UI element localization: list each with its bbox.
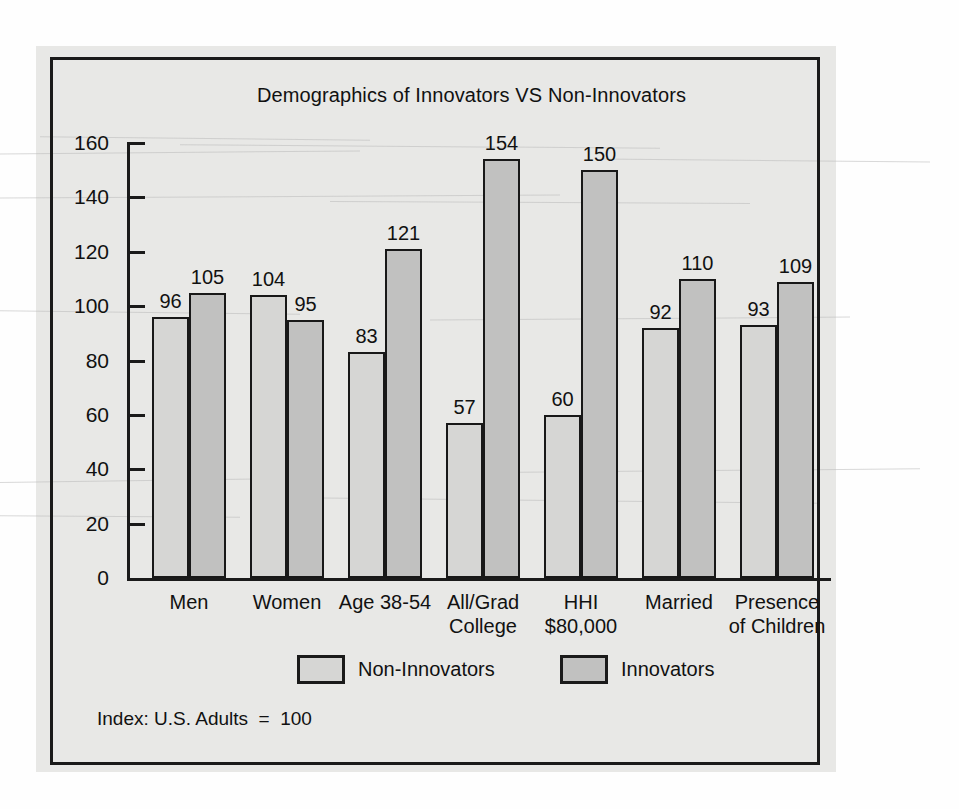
chart-border [50, 57, 820, 765]
scanned-page: Demographics of Innovators VS Non-Innova… [0, 0, 959, 809]
